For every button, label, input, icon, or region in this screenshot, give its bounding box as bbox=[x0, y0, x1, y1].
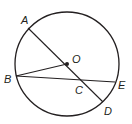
label-e: E bbox=[118, 79, 126, 91]
label-b: B bbox=[4, 73, 11, 85]
circle-diagram: A B O C E D bbox=[0, 0, 132, 124]
center-point bbox=[65, 62, 69, 66]
segment-bo bbox=[16, 64, 67, 76]
label-d: D bbox=[104, 105, 112, 117]
label-a: A bbox=[20, 14, 28, 26]
label-c: C bbox=[75, 84, 83, 96]
label-o: O bbox=[72, 53, 81, 65]
segment-be bbox=[16, 76, 115, 82]
